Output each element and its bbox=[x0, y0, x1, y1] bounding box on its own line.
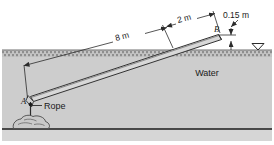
diagram-canvas: Rope 8 m 2 m bbox=[0, 0, 274, 145]
point-label-b: B bbox=[214, 24, 219, 34]
water-surface-hatch-band bbox=[2, 51, 272, 58]
rope-label: Rope bbox=[44, 101, 66, 111]
water-label: Water bbox=[195, 68, 219, 78]
channel-bed bbox=[2, 129, 272, 141]
figure-container: Rope 8 m 2 m bbox=[0, 0, 274, 145]
below-bed-fill bbox=[2, 129, 272, 141]
point-label-a: A bbox=[20, 96, 27, 106]
dim-label-015m: 0.15 m bbox=[223, 10, 249, 20]
